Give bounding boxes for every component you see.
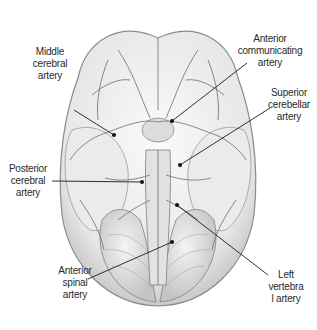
label-left-vertebral-artery: Left vertebra l artery xyxy=(264,269,308,305)
label-posterior-cerebral-artery: Posterior cerebral artery xyxy=(4,163,52,199)
label-middle-cerebral-artery: Middle cerebral artery xyxy=(27,46,73,82)
label-superior-cerebellar-artery: Superior cerebellar artery xyxy=(264,87,314,123)
label-anterior-spinal-artery: Anterior spinal artery xyxy=(53,265,97,301)
brain-artery-diagram: Middle cerebral artery Anterior communic… xyxy=(0,0,317,330)
label-anterior-communicating-artery: Anterior communicating artery xyxy=(234,33,306,69)
